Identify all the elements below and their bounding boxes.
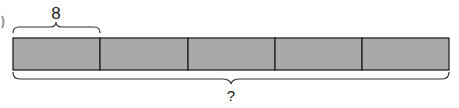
bottom-brace bbox=[13, 72, 449, 84]
segment-1 bbox=[13, 38, 100, 70]
top-label: 8 bbox=[51, 4, 60, 23]
bottom-label: ? bbox=[227, 87, 235, 104]
tape-bar bbox=[13, 38, 449, 70]
segment-4 bbox=[275, 38, 362, 70]
segment-2 bbox=[100, 38, 188, 70]
segment-5 bbox=[362, 38, 449, 70]
segment-3 bbox=[188, 38, 275, 70]
top-brace bbox=[13, 22, 100, 33]
tape-diagram: 8 ? bbox=[0, 0, 459, 108]
left-edge-mark bbox=[2, 16, 4, 28]
